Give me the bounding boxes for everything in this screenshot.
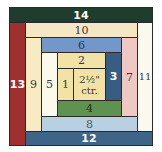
strip-6: 6 <box>41 37 122 53</box>
center-ctr-label: ctr. <box>81 85 97 96</box>
strip-9: 9 <box>25 37 42 132</box>
strip-11: 11 <box>137 22 153 132</box>
strip-14: 14 <box>9 7 153 23</box>
strip-7: 7 <box>121 37 138 117</box>
strip-1: 1 <box>57 68 74 101</box>
strip-12: 12 <box>25 131 153 146</box>
center-size-label: 2½" <box>79 74 100 85</box>
center-square: 2½" ctr. <box>73 68 106 101</box>
strip-10: 10 <box>25 22 138 38</box>
strip-2: 2 <box>57 52 106 69</box>
strip-5: 5 <box>41 52 58 117</box>
strip-13: 13 <box>9 22 26 146</box>
log-cabin-block: 14 13 12 11 10 9 8 7 6 5 4 3 2 1 2½" ctr… <box>9 7 153 146</box>
strip-8: 8 <box>41 116 138 132</box>
strip-3: 3 <box>105 52 122 101</box>
strip-4: 4 <box>57 100 122 117</box>
